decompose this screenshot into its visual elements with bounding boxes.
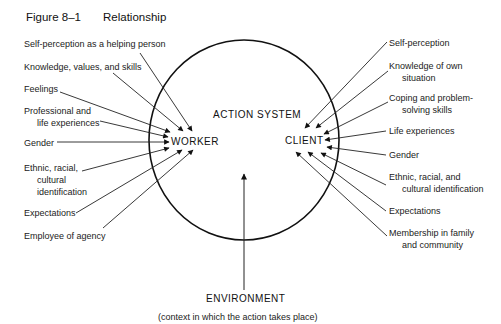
client-input-membership: Membership in family and community <box>389 227 474 251</box>
client-input-knowledge: Knowledge of own situation <box>389 60 463 84</box>
worker-node: WORKER <box>171 136 219 147</box>
worker-input-employee: Employee of agency <box>24 230 106 242</box>
worker-input-feelings: Feelings <box>24 83 58 95</box>
worker-input-expectations: Expectations <box>24 207 76 219</box>
environment-label: ENVIRONMENT <box>206 293 285 304</box>
client-input-self-perception: Self-perception <box>389 37 450 49</box>
worker-input-knowledge: Knowledge, values, and skills <box>24 61 142 73</box>
figure-caption: Relationship <box>103 11 166 23</box>
line: Membership in family <box>389 227 474 239</box>
worker-input-experiences: Professional and life experiences <box>24 105 100 129</box>
line: Ethnic, racial, <box>24 162 87 174</box>
worker-input-ethnic: Ethnic, racial, cultural identification <box>24 162 87 198</box>
line: solving skills <box>389 104 473 116</box>
worker-input-gender: Gender <box>24 137 54 149</box>
line: Coping and problem- <box>389 92 473 104</box>
client-input-expectations: Expectations <box>389 205 441 217</box>
line: life experiences <box>24 117 100 129</box>
client-input-life-experiences: Life experiences <box>389 125 455 137</box>
line: Knowledge of own <box>389 60 463 72</box>
client-input-coping: Coping and problem- solving skills <box>389 92 473 116</box>
client-node: CLIENT <box>285 135 324 146</box>
environment-caption: (context in which the action takes place… <box>158 311 318 323</box>
line: identification <box>24 186 87 198</box>
worker-input-self-perception: Self-perception as a helping person <box>24 38 166 50</box>
line: situation <box>389 72 463 84</box>
figure-number: Figure 8–1 <box>26 11 81 23</box>
line: cultural <box>24 174 87 186</box>
line: Professional and <box>24 105 100 117</box>
action-system-label: ACTION SYSTEM <box>213 109 301 120</box>
client-input-ethnic: Ethnic, racial, and cultural identificat… <box>389 171 484 195</box>
client-input-gender: Gender <box>389 149 419 161</box>
line: and community <box>389 239 474 251</box>
line: Ethnic, racial, and <box>389 171 484 183</box>
figure-title: Figure 8–1Relationship <box>26 11 166 23</box>
line: cultural identification <box>389 183 484 195</box>
